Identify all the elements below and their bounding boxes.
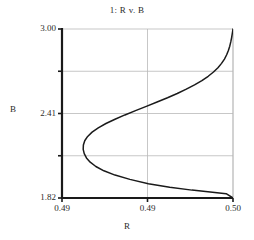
axis-spines	[61, 28, 233, 198]
plot-area	[0, 0, 254, 240]
gridlines	[62, 29, 233, 198]
axis-ticks	[58, 29, 233, 202]
chart-figure: 1: R v. B B R 1.82 2.41 3.00 0.49 0.49 0…	[0, 0, 254, 240]
